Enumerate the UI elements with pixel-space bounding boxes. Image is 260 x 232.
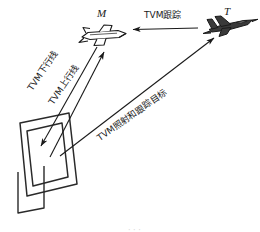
label-target-id: T — [224, 5, 230, 17]
phased-array-radar-icon — [18, 113, 77, 213]
link-tvm-track — [133, 28, 198, 30]
label-tvm-track: TVM跟踪 — [144, 8, 181, 21]
tvm-guidance-diagram: TVM跟踪 M T TVM下行线 TVM上行线 TVM照射和跟踪目标 · · · — [0, 0, 260, 232]
label-missile-id: M — [97, 7, 106, 19]
fighter-jet-icon — [203, 16, 258, 37]
missile-icon — [79, 25, 126, 46]
link-illuminate-track — [60, 38, 214, 156]
clipped-caption: · · · — [128, 226, 141, 232]
